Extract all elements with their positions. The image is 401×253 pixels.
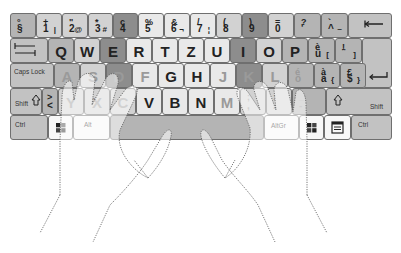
key-z: Z	[178, 38, 204, 63]
key-g: G	[158, 63, 184, 88]
key-right-ctrl: Ctrl	[351, 115, 392, 140]
key-bottom-label: 9	[249, 23, 255, 34]
key-bottom-label: .	[273, 100, 276, 111]
key-o-umlaut: é ö	[288, 63, 314, 88]
key-bottom-label: ¨	[342, 48, 345, 59]
key-2: " 2 @	[62, 13, 88, 38]
key-h: H	[184, 63, 210, 88]
key-label: Shift	[370, 103, 383, 110]
key-label: F	[133, 67, 157, 84]
key-bottom-label: 1	[43, 23, 49, 34]
key-label: X	[85, 93, 109, 110]
key-s: S	[80, 63, 106, 88]
key-u-umlaut: è ü [	[308, 38, 335, 63]
key-bottom-label: §	[17, 23, 23, 34]
key-bottom-label: 7	[197, 23, 203, 34]
key-label: S	[81, 67, 105, 84]
key-tab	[10, 38, 48, 63]
key-label: B	[163, 93, 187, 110]
key-k: K	[236, 63, 262, 88]
key-bottom-label: -	[299, 100, 302, 111]
key-dollar: £ $ }	[340, 63, 366, 88]
key-exclamation: ! ¨ ]	[335, 38, 362, 63]
key-label: Alt	[84, 121, 92, 128]
key-label: Ctrl	[358, 121, 368, 128]
key-v: V	[136, 88, 162, 115]
key-bottom-label: 5	[145, 23, 151, 34]
key-a-umlaut: à ä {	[314, 63, 340, 88]
key-label: A	[55, 67, 79, 84]
key-enter	[362, 38, 392, 88]
key-8: ( 8	[216, 13, 242, 38]
key-c: C	[110, 88, 136, 115]
key-alt-label: |	[54, 25, 56, 34]
key-label: C	[111, 93, 135, 110]
key-3: * 3 #	[88, 13, 113, 38]
key-bottom-label: $	[347, 73, 353, 84]
shift-arrow-icon	[333, 94, 343, 106]
key-period: : .	[266, 88, 292, 115]
key-bottom-label: 6	[171, 23, 177, 34]
key-alt-label: {	[331, 75, 334, 84]
key-left-ctrl: Ctrl	[10, 115, 48, 140]
key-left-alt: Alt	[73, 115, 110, 140]
key-apostrophe: ? '	[294, 13, 321, 38]
key-bottom-label: 0	[275, 23, 281, 34]
key-1: + 1 |	[36, 13, 62, 38]
key-5: % 5	[138, 13, 164, 38]
key-n: N	[188, 88, 214, 115]
key-label: Ctrl	[15, 121, 25, 128]
key-label: AltGr	[271, 122, 286, 129]
key-f: F	[132, 63, 158, 88]
key-j: J	[210, 63, 236, 88]
key-u: U	[204, 38, 230, 63]
key-alt-label: ]	[353, 50, 356, 59]
key-6: & 6 ¬	[164, 13, 190, 38]
key-bottom-label: 4	[120, 23, 126, 34]
key-label: Shift	[15, 100, 28, 107]
backspace-arrow-icon	[349, 14, 392, 38]
key-p: P	[282, 38, 308, 63]
key-r: R	[126, 38, 152, 63]
key-menu	[324, 115, 351, 140]
key-alt-label: }	[357, 75, 360, 84]
key-bottom-label: ä	[321, 73, 327, 84]
key-right-shift: Shift	[326, 88, 392, 115]
key-o: O	[256, 38, 282, 63]
key-label: V	[137, 93, 161, 110]
key-label: J	[211, 67, 235, 84]
key-label: H	[185, 67, 209, 84]
key-label: R	[127, 42, 151, 59]
key-bottom-label: ,	[247, 100, 250, 111]
key-right-windows	[299, 115, 324, 140]
key-alt-label: @	[74, 25, 82, 34]
key-label: Y	[59, 93, 83, 110]
windows-logo-icon	[307, 123, 317, 133]
key-label: I	[231, 42, 255, 59]
key-9: ) 9	[242, 13, 268, 38]
key-spacebar	[110, 115, 264, 140]
key-bottom-label: '	[301, 23, 303, 34]
key-label: W	[75, 42, 99, 59]
key-t: T	[152, 38, 178, 63]
key-x: X	[84, 88, 110, 115]
key-section: ° §	[10, 13, 36, 38]
key-hyphen: _ -	[292, 88, 326, 115]
key-label: T	[153, 42, 177, 59]
key-label: N	[189, 93, 213, 110]
key-altgr: AltGr	[264, 115, 299, 140]
key-alt-label: ¬	[179, 25, 184, 34]
key-bottom-label: 3	[95, 23, 101, 34]
key-4: ç 4	[113, 13, 138, 38]
key-7: / 7 ¦	[190, 13, 216, 38]
key-l: L	[262, 63, 288, 88]
key-label: P	[283, 42, 307, 59]
key-label: K	[237, 67, 261, 84]
key-alt-label: ~	[337, 25, 342, 34]
key-label: U	[205, 42, 229, 59]
enter-arrow-icon	[363, 39, 392, 88]
key-b: B	[162, 88, 188, 115]
key-label: G	[159, 67, 183, 84]
key-e: E	[100, 38, 126, 63]
tab-arrows-icon	[11, 39, 48, 63]
